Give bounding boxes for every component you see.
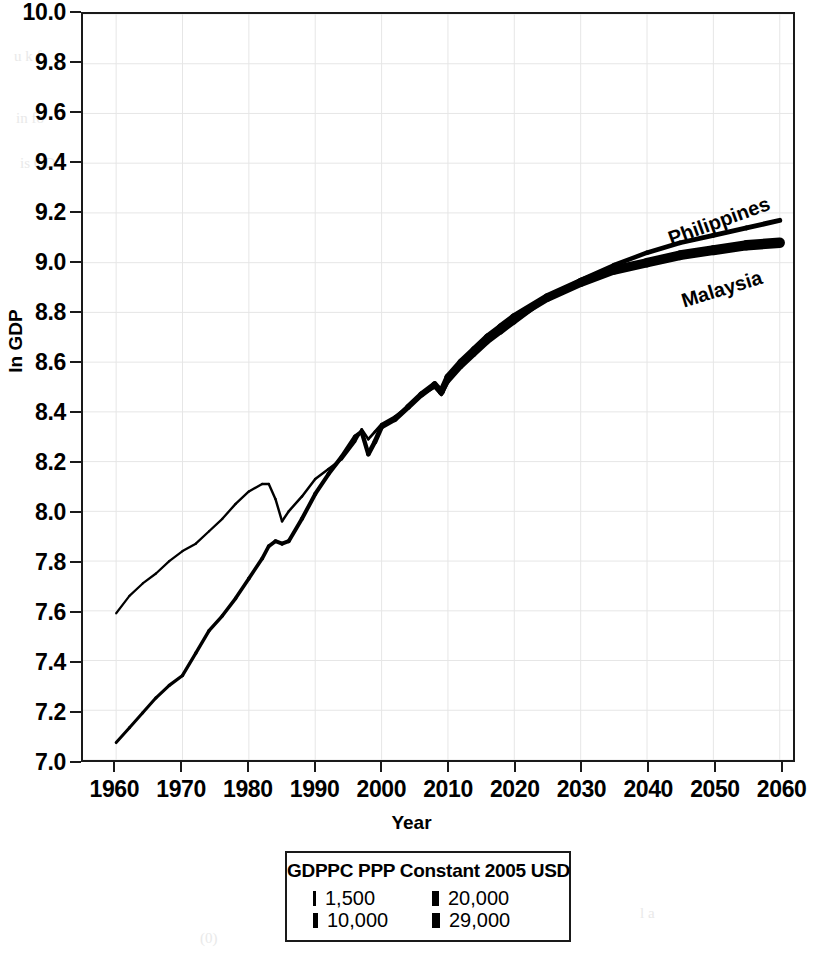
series-segment [116, 728, 129, 743]
x-axis-tick-label: 1970 [156, 778, 206, 801]
x-axis-tick-mark [113, 762, 115, 772]
y-axis-tick-label: 7.2 [35, 701, 70, 724]
legend-entry: 10,000 [313, 910, 432, 930]
series-segment [581, 270, 614, 282]
series-segment [156, 685, 169, 697]
series-segment [647, 255, 680, 262]
x-axis-tick-mark [781, 762, 783, 772]
legend-entry-label: 20,000 [448, 888, 509, 908]
y-axis-tick-mark [70, 611, 81, 613]
x-axis-tick-label: 2020 [490, 778, 540, 801]
legend-swatch-icon [313, 913, 318, 928]
x-axis-tick-label: 2000 [356, 778, 406, 801]
series-segment [156, 561, 169, 573]
x-axis-tick-mark [380, 762, 382, 772]
legend-entries: 1,50020,00010,00029,000 [287, 888, 569, 930]
x-axis-tick-label: 2050 [690, 778, 740, 801]
y-axis-tick-label: 7.8 [35, 551, 70, 574]
series-segment [143, 574, 156, 584]
legend-title: GDPPC PPP Constant 2005 USD [287, 860, 569, 882]
x-axis-tick-label: 2030 [557, 778, 607, 801]
y-axis-tick-label: 9.6 [35, 101, 70, 124]
legend-swatch-icon [432, 891, 439, 906]
series-segment [236, 578, 249, 598]
chart-figure: u k f r t o i (a) n 2005 in fo is GD a n… [0, 0, 823, 960]
y-axis-tick-label: 7.4 [35, 651, 70, 674]
x-axis-tick-mark [447, 762, 449, 772]
series-segment [342, 437, 355, 457]
legend-entry: 20,000 [432, 888, 551, 908]
series-segment [129, 583, 142, 595]
x-axis-tick-mark [180, 762, 182, 772]
series-segment [547, 283, 580, 298]
y-axis-tick-label: 8.4 [35, 401, 70, 424]
series-segment [169, 675, 182, 685]
series-segment [289, 496, 302, 511]
page-bleed-artifact: (0) [200, 930, 218, 947]
y-axis-tick-mark [70, 411, 81, 413]
y-axis-tick-label: 8.8 [35, 301, 70, 324]
legend-entry-label: 10,000 [327, 910, 388, 930]
x-axis-tick-mark [514, 762, 516, 772]
y-axis-tick-mark [70, 361, 81, 363]
legend-entry: 29,000 [432, 910, 551, 930]
legend-swatch-icon [432, 913, 440, 928]
legend-entry-label: 1,500 [325, 888, 375, 908]
series-segment [169, 551, 182, 561]
series-segment [209, 616, 222, 631]
y-axis-tick-mark [70, 661, 81, 663]
y-axis: 10.09.89.69.49.29.08.88.68.48.28.07.87.6… [0, 0, 81, 762]
y-axis-title: ln GDP [5, 301, 27, 381]
series-segment [302, 494, 315, 519]
y-axis-tick-mark [70, 561, 81, 563]
x-axis-tick-label: 2060 [757, 778, 807, 801]
y-axis-tick-mark [70, 111, 81, 113]
y-axis-tick-label: 9.8 [35, 51, 70, 74]
series-segment [282, 511, 289, 521]
y-axis-tick-mark [70, 11, 81, 13]
x-axis-tick-mark [247, 762, 249, 772]
y-axis-tick-label: 8.2 [35, 451, 70, 474]
x-axis-tick-label: 1960 [90, 778, 140, 801]
series-segment [275, 499, 282, 521]
y-axis-tick-mark [70, 711, 81, 713]
page-bleed-artifact: l a [640, 905, 655, 922]
chart-canvas [83, 14, 793, 760]
y-axis-tick-label: 8.6 [35, 351, 70, 374]
series-segment [747, 243, 780, 245]
x-axis-tick-mark [647, 762, 649, 772]
legend-entry-label: 29,000 [449, 910, 510, 930]
y-axis-tick-mark [70, 61, 81, 63]
series-segment [236, 491, 249, 503]
series-segment [129, 713, 142, 728]
plot-area [81, 12, 795, 762]
series-segment [183, 544, 196, 551]
legend: GDPPC PPP Constant 2005 USD 1,50020,0001… [285, 851, 571, 942]
x-axis-tick-label: 2040 [623, 778, 673, 801]
y-axis-tick-label: 8.0 [35, 501, 70, 524]
y-axis-tick-label: 10.0 [22, 1, 70, 24]
y-axis-tick-mark [70, 261, 81, 263]
series-segment [269, 484, 276, 499]
y-axis-tick-label: 7.6 [35, 601, 70, 624]
y-axis-tick-mark [70, 461, 81, 463]
x-axis: 1960197019801990200020102020203020402050… [0, 762, 823, 808]
y-axis-tick-mark [70, 511, 81, 513]
y-axis-tick-label: 9.4 [35, 151, 70, 174]
series-segment [289, 519, 302, 541]
series-segment [249, 484, 262, 491]
y-axis-tick-mark [70, 211, 81, 213]
series-segment [209, 519, 222, 531]
series-segment [514, 297, 547, 317]
x-axis-tick-label: 1990 [290, 778, 340, 801]
series-segment [262, 546, 269, 558]
y-axis-tick-mark [70, 161, 81, 163]
series-segment [196, 631, 209, 653]
x-axis-tick-label: 2010 [423, 778, 473, 801]
x-axis-tick-mark [314, 762, 316, 772]
series-segment [329, 457, 342, 474]
series-segment [183, 653, 196, 675]
x-axis-title: Year [0, 812, 823, 834]
y-axis-tick-mark [70, 311, 81, 313]
x-axis-tick-mark [580, 762, 582, 772]
